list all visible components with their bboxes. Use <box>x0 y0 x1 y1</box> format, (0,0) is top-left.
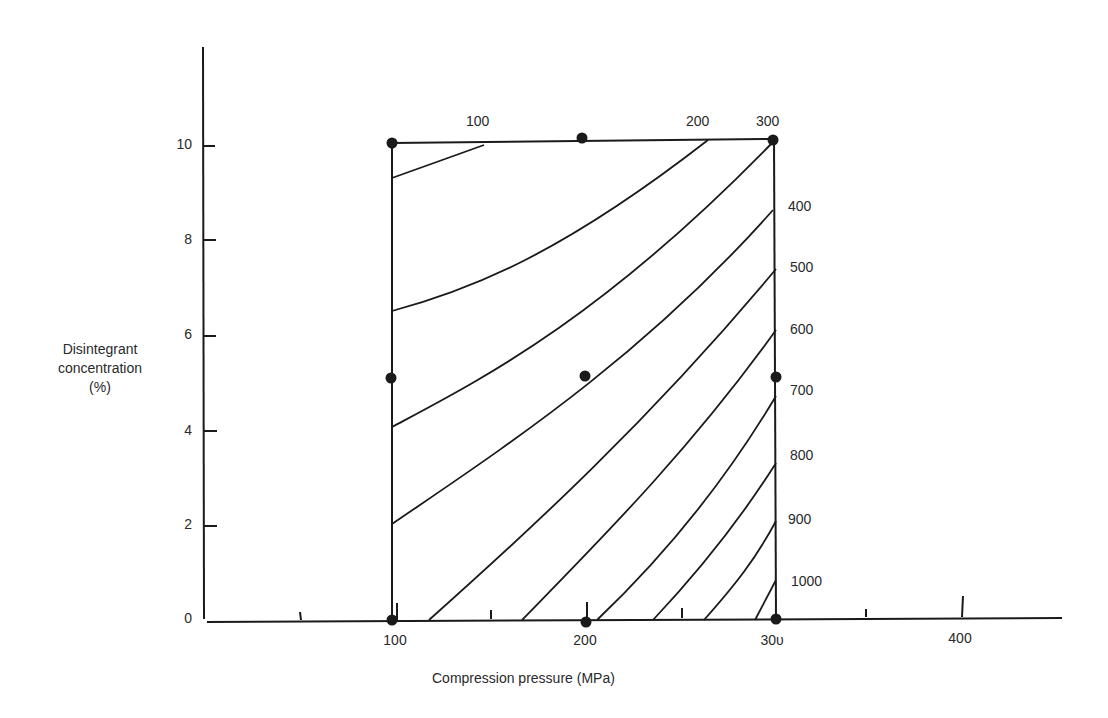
contour-label: 700 <box>790 382 813 398</box>
contour-label: 300 <box>756 113 779 129</box>
y-tick-label: 2 <box>162 516 192 532</box>
y-axis <box>203 47 204 619</box>
contour-500 <box>429 269 776 620</box>
y-tick-label: 8 <box>162 231 192 247</box>
contour-1000 <box>755 580 776 620</box>
x-tick-label: 30υ <box>747 632 797 648</box>
design-point <box>771 372 782 383</box>
design-point <box>387 138 398 149</box>
x-tick-label: 100 <box>370 632 420 648</box>
contour-label: 900 <box>788 511 811 527</box>
design-point <box>771 614 782 625</box>
contour-100 <box>392 145 484 178</box>
contour-900 <box>704 521 776 620</box>
contour-label: 1000 <box>791 573 822 589</box>
design-point <box>580 371 591 382</box>
contour-600 <box>522 330 776 620</box>
contour-700 <box>597 396 776 620</box>
design-point <box>768 135 779 146</box>
y-tick-label: 10 <box>162 136 192 152</box>
contour-300 <box>392 142 773 427</box>
design-point <box>386 373 397 384</box>
contour-label: 400 <box>788 198 811 214</box>
y-tick-label: 0 <box>162 610 192 626</box>
y-axis-ticks <box>203 146 217 526</box>
y-axis-label-line: concentration <box>30 359 170 378</box>
contour-label: 500 <box>790 259 813 275</box>
y-tick-label: 4 <box>162 422 192 438</box>
y-axis-label-line: Disintegrant <box>30 340 170 359</box>
design-point <box>577 133 588 144</box>
contour-label: 100 <box>466 113 489 129</box>
contour-label: 600 <box>790 321 813 337</box>
contour-label: 800 <box>790 447 813 463</box>
x-tick-label: 400 <box>935 630 985 646</box>
y-axis-label-line: (%) <box>30 378 170 397</box>
design-points <box>386 133 782 628</box>
x-tick-label: 200 <box>560 632 610 648</box>
x-axis-ticks <box>300 596 963 620</box>
design-point <box>387 615 398 626</box>
x-axis-label: Compression pressure (MPa) <box>432 670 615 686</box>
x-axis <box>207 618 1062 622</box>
contour-label: 200 <box>686 113 709 129</box>
y-axis-label: Disintegrant concentration (%) <box>30 340 170 397</box>
contour-200 <box>392 140 708 311</box>
design-point <box>581 617 592 628</box>
